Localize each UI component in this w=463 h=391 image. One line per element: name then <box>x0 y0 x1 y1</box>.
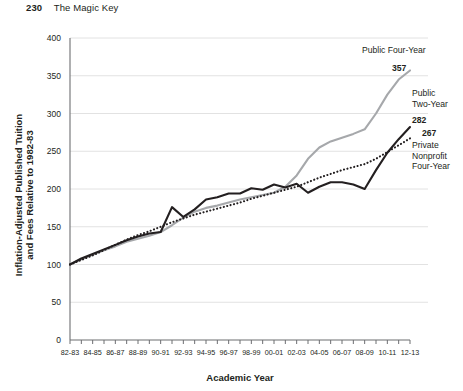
x-tick-label: 06-07 <box>333 348 351 357</box>
series-end-value: 282 <box>412 115 427 125</box>
x-tick-label: 86-87 <box>106 348 124 357</box>
series-annotation-label: Four-Year <box>412 161 450 171</box>
x-axis: 82-8384-8586-8788-8990-9192-9394-9596-97… <box>61 340 419 357</box>
y-tick-label: 350 <box>47 71 61 81</box>
x-tick-label: 00-01 <box>265 348 283 357</box>
series-annotation-label: Private <box>412 140 439 150</box>
y-tick-label: 100 <box>47 260 61 270</box>
y-tick-label: 300 <box>47 109 61 119</box>
x-tick-label: 84-85 <box>83 348 101 357</box>
x-tick-label: 96-97 <box>219 348 237 357</box>
series-annotation-label: Nonprofit <box>412 151 447 161</box>
series-line-public-four-year <box>70 70 410 264</box>
x-tick-label: 82-83 <box>61 348 79 357</box>
x-tick-label: 04-05 <box>310 348 328 357</box>
x-axis-title: Academic Year <box>206 372 274 383</box>
x-tick-label: 12-13 <box>401 348 419 357</box>
series-annotation-label: Public Four-Year <box>362 45 426 55</box>
y-tick-label: 250 <box>47 146 61 156</box>
series-annotation-label: Two-Year <box>412 99 448 109</box>
series-annotations: Public Four-Year357PublicTwo-Year282Priv… <box>362 45 450 171</box>
x-tick-label: 90-91 <box>151 348 169 357</box>
line-chart-figure: 050100150200250300350400 82-8384-8586-87… <box>0 0 463 391</box>
y-tick-label: 400 <box>47 33 61 43</box>
y-tick-label: 200 <box>47 184 61 194</box>
chart-svg: 050100150200250300350400 82-8384-8586-87… <box>0 0 463 391</box>
x-tick-label: 98-99 <box>242 348 260 357</box>
data-series <box>70 70 410 264</box>
x-tick-label: 92-93 <box>174 348 192 357</box>
y-axis: 050100150200250300350400 <box>47 33 70 345</box>
series-end-value: 357 <box>392 63 407 73</box>
series-end-value: 267 <box>422 128 437 138</box>
y-tick-label: 150 <box>47 222 61 232</box>
series-annotation-label: Public <box>412 88 436 98</box>
x-tick-label: 94-95 <box>197 348 215 357</box>
series-line-private-nonprofit-four-year <box>70 138 410 264</box>
x-tick-label: 02-03 <box>287 348 305 357</box>
y-tick-label: 0 <box>56 335 61 345</box>
x-tick-label: 10-11 <box>378 348 396 357</box>
x-tick-label: 08-09 <box>355 348 373 357</box>
y-tick-label: 50 <box>52 297 62 307</box>
x-tick-label: 88-89 <box>129 348 147 357</box>
